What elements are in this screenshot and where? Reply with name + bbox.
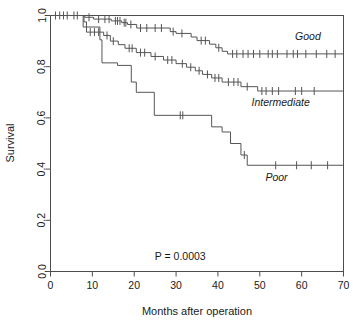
curve-label-intermediate: Intermediate [252, 96, 311, 108]
y-axis-title: Survival [4, 123, 16, 162]
p-value-annotation: P = 0.0003 [155, 250, 206, 262]
y-axis-tick-label: 0.4 [36, 162, 48, 177]
x-axis-ticks [51, 272, 344, 277]
y-axis-tick-label: 0.0 [36, 264, 48, 279]
x-axis-tick-label: 20 [128, 279, 140, 291]
x-axis-tick-label: 0 [48, 279, 54, 291]
y-axis-tick-label: 0.2 [36, 213, 48, 228]
x-axis-tick-label: 50 [254, 279, 266, 291]
curve-label-good: Good [295, 30, 322, 42]
annotations-group: P = 0.0003 [155, 250, 206, 262]
curve-label-poor: Poor [265, 171, 288, 183]
x-axis-tick-label: 60 [296, 279, 308, 291]
y-axis-ticks [46, 16, 51, 272]
y-axis-tick-label: 1.0 [36, 8, 48, 23]
y-axis-tick-labels: 0.00.20.40.60.81.0 [36, 8, 48, 279]
x-axis-tick-label: 10 [87, 279, 99, 291]
x-axis-tick-label: 30 [170, 279, 182, 291]
censoring-marks-group [56, 12, 336, 170]
x-axis-title: Months after operation [142, 305, 252, 317]
y-axis-tick-label: 0.6 [36, 110, 48, 125]
y-axis-tick-label: 0.8 [36, 59, 48, 74]
survival-chart-figure: 010203040506070 0.00.20.40.60.81.0 Month… [0, 0, 359, 326]
x-axis-tick-label: 70 [338, 279, 350, 291]
x-axis-tick-label: 40 [212, 279, 224, 291]
x-axis-tick-labels: 010203040506070 [48, 279, 350, 291]
kaplan-meier-plot: 010203040506070 0.00.20.40.60.81.0 Month… [0, 0, 359, 326]
